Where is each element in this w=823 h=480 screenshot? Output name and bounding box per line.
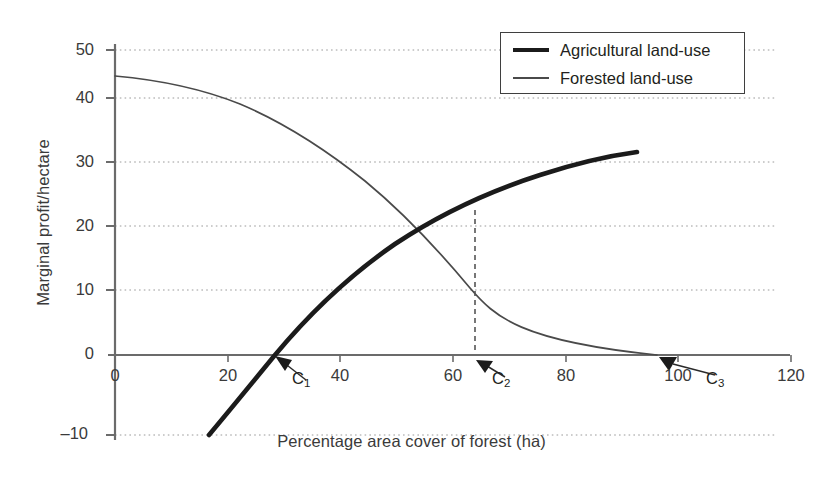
y-axis-title: Marginal profit/hectare bbox=[34, 73, 53, 373]
legend-label-agricultural: Agricultural land-use bbox=[560, 41, 710, 60]
c3-letter: C bbox=[706, 369, 718, 387]
legend-item-forested: Forested land-use bbox=[511, 64, 693, 92]
legend-line-icon-forested bbox=[511, 72, 551, 84]
legend-label-forested: Forested land-use bbox=[560, 69, 693, 88]
c1-subscript: 1 bbox=[304, 377, 310, 389]
x-tick-label-80: 80 bbox=[536, 366, 596, 385]
legend-line-icon-agricultural bbox=[511, 44, 551, 56]
c3-subscript: 3 bbox=[718, 377, 724, 389]
x-tick-label-60: 60 bbox=[423, 366, 483, 385]
x-axis-title: Percentage area cover of forest (ha) bbox=[0, 432, 823, 451]
c1-arrow-head bbox=[275, 356, 292, 371]
annotation-label-c3: C3 bbox=[706, 369, 724, 388]
x-tick-label-20: 20 bbox=[198, 366, 258, 385]
chart-figure: 50 40 30 20 10 0 –10 0 20 40 60 80 100 1… bbox=[0, 0, 823, 480]
x-tick-label-120: 120 bbox=[761, 366, 821, 385]
legend-item-agricultural: Agricultural land-use bbox=[511, 36, 710, 64]
x-tick-label-100: 100 bbox=[648, 366, 708, 385]
c1-letter: C bbox=[292, 369, 304, 387]
x-tick-label-0: 0 bbox=[85, 366, 145, 385]
series-forested-land-use bbox=[115, 76, 657, 355]
annotation-label-c1: C1 bbox=[292, 369, 310, 388]
y-tick-label-50: 50 bbox=[34, 40, 94, 59]
legend: Agricultural land-use Forested land-use bbox=[500, 32, 745, 94]
annotation-label-c2: C2 bbox=[492, 369, 510, 388]
x-tick-label-40: 40 bbox=[310, 366, 370, 385]
c2-letter: C bbox=[492, 369, 504, 387]
x-tick-marks bbox=[115, 355, 791, 365]
series-agricultural-land-use bbox=[209, 152, 637, 435]
c2-subscript: 2 bbox=[504, 377, 510, 389]
